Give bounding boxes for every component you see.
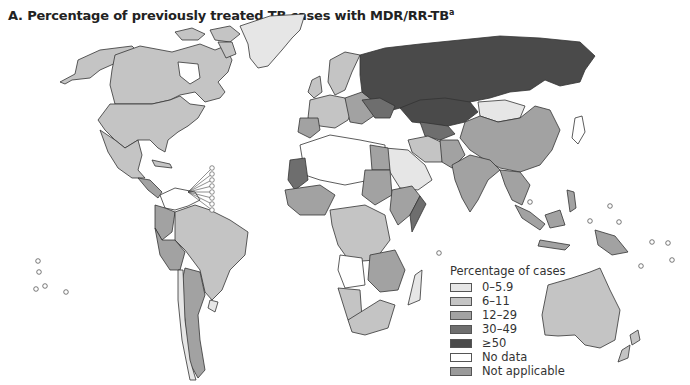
legend-swatch bbox=[450, 339, 472, 348]
legend-swatch bbox=[450, 297, 472, 306]
legend-label: No data bbox=[482, 350, 527, 364]
map-legend: Percentage of cases 0–5.9 6–11 12–29 30–… bbox=[450, 264, 590, 378]
caribbean-callouts bbox=[188, 166, 214, 213]
legend-label: 0–5.9 bbox=[482, 280, 513, 294]
legend-item-50-plus: ≥50 bbox=[450, 336, 590, 350]
legend-label: 30–49 bbox=[482, 322, 517, 336]
region-greenland bbox=[240, 14, 305, 68]
legend-swatch bbox=[450, 367, 472, 376]
legend-swatch bbox=[450, 325, 472, 334]
region-canada bbox=[110, 44, 232, 104]
legend-item-no-data: No data bbox=[450, 350, 590, 364]
legend-item-0-5-9: 0–5.9 bbox=[450, 280, 590, 294]
region-russia bbox=[360, 36, 595, 112]
legend-label: Not applicable bbox=[482, 364, 565, 378]
legend-item-6-11: 6–11 bbox=[450, 294, 590, 308]
legend-item-12-29: 12–29 bbox=[450, 308, 590, 322]
legend-swatch bbox=[450, 283, 472, 292]
legend-item-30-49: 30–49 bbox=[450, 322, 590, 336]
legend-label: ≥50 bbox=[482, 336, 506, 350]
legend-title: Percentage of cases bbox=[450, 264, 590, 278]
region-india bbox=[452, 155, 500, 212]
legend-swatch bbox=[450, 311, 472, 320]
legend-item-not-applicable: Not applicable bbox=[450, 364, 590, 378]
legend-swatch bbox=[450, 353, 472, 362]
legend-label: 12–29 bbox=[482, 308, 517, 322]
legend-label: 6–11 bbox=[482, 294, 510, 308]
